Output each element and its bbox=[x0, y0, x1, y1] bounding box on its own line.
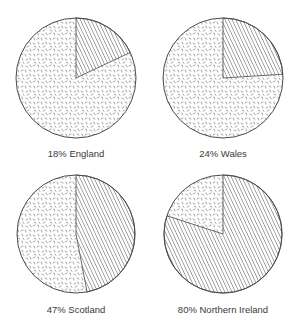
pie-slice-hatched bbox=[76, 175, 135, 292]
pie-label-wales: 24% Wales bbox=[148, 148, 298, 159]
pie-label-northern-ireland: 80% Northern Ireland bbox=[148, 304, 298, 315]
pie-chart-grid bbox=[0, 0, 299, 332]
pie-scotland bbox=[17, 175, 135, 293]
pie-england bbox=[16, 18, 136, 138]
pie-northern-ireland bbox=[164, 175, 282, 293]
pie-wales bbox=[163, 18, 283, 138]
pie-slice-hatched bbox=[223, 18, 283, 78]
pie-label-england: 18% England bbox=[1, 148, 151, 159]
pie-label-scotland: 47% Scotland bbox=[1, 304, 151, 315]
